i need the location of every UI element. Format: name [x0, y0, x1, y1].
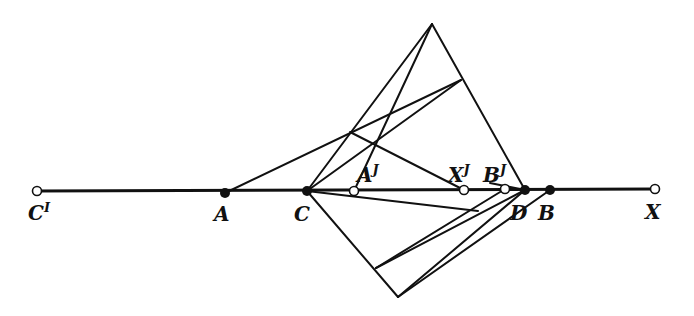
label-x: X — [643, 200, 662, 224]
construction-lines — [225, 24, 550, 297]
point-c — [302, 186, 312, 196]
point-a — [220, 188, 230, 198]
point-a-prime — [350, 187, 359, 196]
point-b — [545, 185, 555, 195]
label-a-prime: AJ — [355, 162, 380, 187]
construction-line — [225, 80, 461, 193]
point-d — [520, 185, 530, 195]
construction-line — [307, 191, 478, 211]
construction-line — [307, 191, 398, 297]
point-x — [651, 185, 660, 194]
label-x-prime: XJ — [446, 162, 471, 187]
main-line — [37, 189, 655, 191]
construction-line — [307, 80, 461, 191]
point-labels: CIACAJXJBJDBX — [28, 162, 662, 226]
label-a: A — [212, 202, 230, 226]
label-c: C — [294, 202, 310, 226]
point-c-prime — [33, 187, 42, 196]
label-b: B — [537, 201, 555, 225]
label-d: D — [509, 201, 528, 225]
label-b-prime: BJ — [482, 162, 507, 187]
geometry-diagram: CIACAJXJBJDBX — [0, 0, 694, 316]
point-b-prime — [501, 185, 510, 194]
construction-line — [432, 24, 525, 190]
label-c-prime: CI — [28, 200, 51, 225]
